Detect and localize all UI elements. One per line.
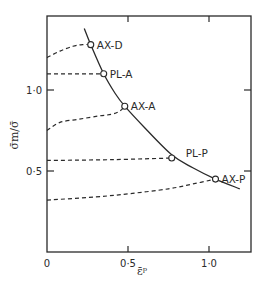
marker-ax-a [122,103,128,109]
marker-ax-d [88,42,94,48]
marker-pl-a [101,71,107,77]
dashed-path-pl-p [47,158,172,160]
dashed-path-ax-a [47,106,125,130]
x-tick-label: 0 [44,258,50,269]
marker-label: AX-A [131,100,156,112]
y-tick-label: 0·5 [26,166,42,177]
y-axis-title: σ̄m/σ̄ [8,120,21,150]
markers: AX-DPL-AAX-APL-PAX-P [88,39,246,185]
chart: 00·51·00·51·0 AX-DPL-AAX-APL-PAX-P ε̄ᵖ σ… [0,0,265,285]
marker-label: AX-P [221,173,245,185]
plot-frame [47,16,251,252]
x-tick-label: 0·5 [120,258,136,269]
marker-label: PL-P [186,147,208,159]
marker-ax-p [212,176,218,182]
x-tick-label: 1·0 [201,258,217,269]
marker-label: AX-D [97,39,123,51]
dashed-path-ax-p [47,179,215,200]
marker-pl-p [169,155,175,161]
marker-label: PL-A [110,68,134,80]
axis-ticks: 00·51·00·51·0 [26,16,251,269]
x-axis-title: ε̄ᵖ [137,265,148,278]
limit-curve [84,28,240,188]
dashed-path-ax-d [47,45,91,58]
y-tick-label: 1·0 [26,85,42,96]
curves [47,28,240,200]
